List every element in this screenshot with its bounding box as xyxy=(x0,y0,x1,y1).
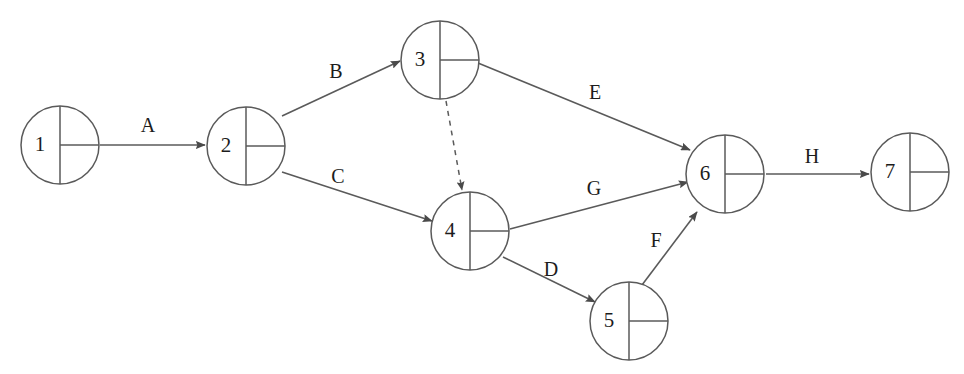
edge-label-A: A xyxy=(141,114,156,136)
node-7[interactable]: 7 xyxy=(871,133,949,211)
node-4[interactable]: 4 xyxy=(431,192,509,270)
edge-label-C: C xyxy=(331,165,344,187)
node-4-label: 4 xyxy=(445,218,456,242)
activity-network-diagram: A B C E G D F xyxy=(0,0,964,374)
node-7-label: 7 xyxy=(885,159,896,183)
node-2[interactable]: 2 xyxy=(207,107,285,185)
edge-label-G: G xyxy=(587,177,601,199)
node-1[interactable]: 1 xyxy=(21,106,99,184)
edge-label-E: E xyxy=(589,81,601,103)
node-6-label: 6 xyxy=(700,161,711,185)
node-6[interactable]: 6 xyxy=(686,135,764,213)
node-5-label: 5 xyxy=(604,308,615,332)
diagram-background xyxy=(0,0,964,374)
node-5[interactable]: 5 xyxy=(590,282,668,360)
node-3[interactable]: 3 xyxy=(401,21,479,99)
edge-label-D: D xyxy=(544,258,558,280)
node-2-label: 2 xyxy=(221,133,232,157)
node-3-label: 3 xyxy=(415,47,426,71)
edge-label-B: B xyxy=(329,60,342,82)
edge-label-F: F xyxy=(650,229,661,251)
edge-label-H: H xyxy=(805,145,819,167)
node-1-label: 1 xyxy=(35,132,46,156)
